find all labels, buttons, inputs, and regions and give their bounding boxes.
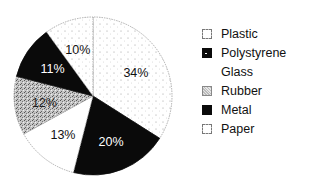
legend-swatch-glass [202,67,212,77]
slice-label-paper: 10% [65,43,90,57]
legend-label: Rubber [221,84,262,98]
legend-label: Glass [221,65,253,79]
legend-label: Metal [221,103,252,117]
legend-item-plastic: Plastic [202,24,286,43]
slice-label-glass: 13% [50,128,75,142]
legend: PlasticPolystyreneGlassRubberMetalPaper [202,24,286,138]
legend-swatch-plastic [202,29,212,39]
slice-label-rubber: 12% [32,96,57,110]
legend-item-polystyrene: Polystyrene [202,43,286,62]
legend-swatch-polystyrene [202,48,212,58]
legend-item-metal: Metal [202,100,286,119]
legend-swatch-paper [202,124,212,134]
legend-item-glass: Glass [202,62,286,81]
legend-swatch-rubber [202,86,212,96]
slice-label-polystyrene: 20% [99,135,124,149]
legend-item-rubber: Rubber [202,81,286,100]
legend-label: Polystyrene [221,46,286,60]
slice-label-metal: 11% [40,62,64,76]
slice-label-plastic: 34% [123,66,148,80]
legend-label: Plastic [221,27,258,41]
legend-label: Paper [221,122,254,136]
legend-swatch-metal [202,105,212,115]
legend-item-paper: Paper [202,119,286,138]
